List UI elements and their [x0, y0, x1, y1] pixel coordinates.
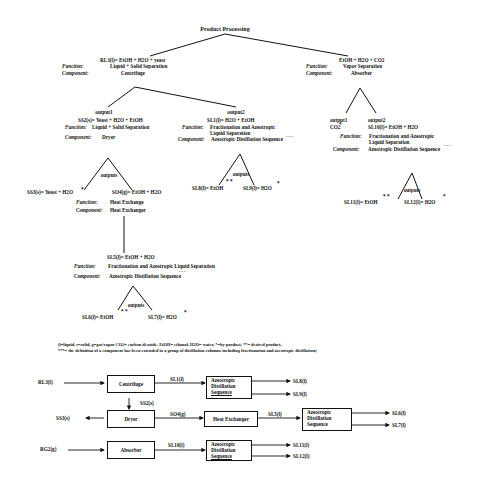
outputs-label: outputs [128, 302, 145, 308]
function-label: Function: [74, 263, 96, 269]
component-label: Component: [62, 70, 89, 76]
so4-stream-label: SO4(g) [170, 411, 186, 417]
sl8-output-label: SL8(l) [293, 378, 307, 384]
outputs-label: outputs [101, 172, 118, 178]
sl6-stream: SL6(l)= EtOH [82, 314, 113, 320]
centrifuge-component: Centrifuge [121, 70, 145, 76]
sl1-stream-label: SL1(l) [170, 376, 184, 382]
ads-block-1-line3: Sequence [211, 389, 232, 395]
dryer-component: Dryer [102, 134, 115, 140]
dryer-block-label: Dryer [124, 416, 137, 422]
sl9-stream: SL9(l)= H2O [243, 185, 272, 191]
component-label: Component: [333, 146, 360, 152]
byproduct-mark: * [81, 186, 84, 192]
output2-label: output2 [227, 109, 244, 115]
legend-line-2: ***= the definition of a component has b… [58, 348, 317, 354]
byproduct-mark: * [184, 309, 187, 315]
heat-exchanger-block: Heat Exchanger [204, 411, 258, 427]
component-label: Component: [65, 134, 92, 140]
sl9-output-label: SL9(l) [293, 391, 307, 397]
absorber-block: Absorber [107, 441, 155, 459]
function-label: Function: [76, 199, 98, 205]
root-title: Product Processing [200, 26, 249, 32]
ss2-stream-label: SS2(s) [140, 400, 154, 406]
centrifuge-block-label: Centrifuge [119, 381, 143, 387]
outputs-label: outputs [233, 171, 250, 177]
function-label: Function: [306, 63, 328, 69]
sl10-stream-label: SL10(l) [168, 442, 184, 448]
hx-function: Heat Exchange [110, 199, 144, 205]
co2-stream: CO2 [330, 124, 340, 130]
sl7-stream: SL7(l)= H2O [148, 314, 177, 320]
ellipsis: . . . [444, 141, 450, 147]
function-label: Function: [340, 133, 362, 139]
sl11-output-label: SL11(l) [293, 442, 309, 448]
sl12-output-label: SL12(l) [293, 453, 309, 459]
sl1-stream: SL1(l)= H2O + EtOH [207, 117, 255, 123]
rg2-input-label: RG2(g) [40, 446, 56, 452]
sl5-component: Azeotropic Distillation Sequence [109, 273, 181, 279]
absorber-block-label: Absorber [120, 447, 141, 453]
sl10-function-2: Liquid Separation [369, 139, 410, 145]
sl5-stream-label: SL5(l) [268, 411, 282, 417]
ads-block-2-line3: Sequence [307, 421, 328, 427]
sl11-stream: SL11(l)= EtOH [344, 199, 378, 205]
ads-block-3: Azeotropic Distillation Sequence [206, 440, 252, 461]
dryer-block: Dryer [107, 410, 155, 428]
ads-block-3-line3: Sequence [211, 453, 232, 459]
byproduct-mark: * [277, 180, 280, 186]
component-label: Component: [178, 136, 205, 142]
component-label: Component: [76, 207, 103, 213]
sl10-component: Azeotropic Distillation Sequence [368, 146, 440, 152]
sl5-stream: SL5(l)= EtOH + H2O [107, 254, 155, 260]
sl10-stream: SL10(l)= EtOH + H2O [368, 124, 418, 130]
sl12-stream: SL12(l)= H2O [404, 199, 435, 205]
sl7-output-label: SL7(l) [392, 422, 406, 428]
absorber-component: Absorber [351, 70, 372, 76]
desired-mark: * * [121, 308, 127, 314]
ss2-stream: SS2(s)= Yeast + H2O + EtOH [78, 117, 143, 123]
ellipsis: . . . [286, 132, 292, 138]
sl5-function: Fractionation and Azeotropic Liquid Sepa… [108, 263, 215, 269]
outputs-label: outputs [404, 187, 421, 193]
output1-label: output1 [95, 109, 112, 115]
sl6-output-label: SL6(l) [392, 410, 406, 416]
centrifuge-function: Liquid + Solid Separation [110, 63, 167, 69]
ads-block-2: Azeotropic Distillation Sequence [302, 408, 352, 431]
rl3-input-label: RL3(l) [38, 379, 53, 385]
dryer-function: Liquid + Solid Separation [92, 124, 149, 130]
absorber-function: Vapor Separation [343, 63, 382, 69]
centrifuge-block: Centrifuge [107, 375, 155, 393]
function-label: Function: [62, 63, 84, 69]
hx-component: Heat Exchanger [110, 207, 146, 213]
ss3-output-label: SS3(s) [56, 415, 70, 421]
function-label: Function: [182, 124, 204, 130]
component-label: Component: [306, 70, 333, 76]
function-label: Function: [65, 124, 87, 130]
desired-mark: * * [383, 193, 389, 199]
desired-mark: * * [226, 178, 232, 184]
component-label: Component: [74, 273, 101, 279]
ads-block-1: Azeotropic Distillation Sequence [206, 376, 252, 399]
ss3-stream: SS3(s)= Yeast + H2O [27, 189, 73, 195]
sl1-component: Azeotropic Distillation Sequence [211, 136, 283, 142]
output2-label: output2 [368, 117, 385, 123]
so4-stream: SO4(g)= EtOH + H2O [112, 189, 161, 195]
byproduct-mark: * [443, 193, 446, 199]
sl8-stream: SL8(l)= EtOH [192, 185, 223, 191]
heat-exchanger-block-label: Heat Exchanger [213, 416, 249, 422]
